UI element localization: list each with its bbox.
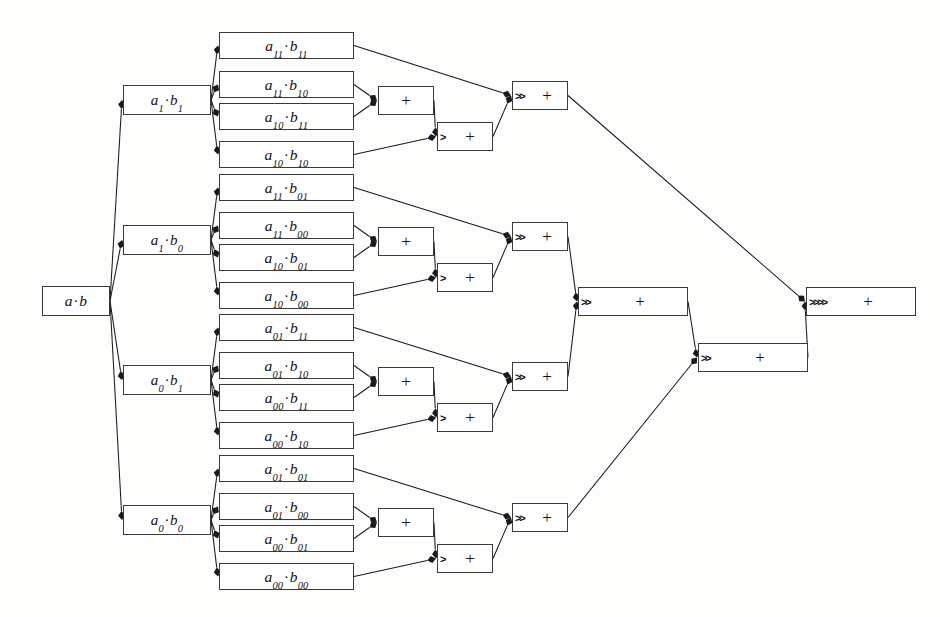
node-label: a1·b0 — [151, 232, 184, 249]
shift-marker-icon: >> — [701, 351, 709, 363]
node-partial-product-4[interactable]: a0·b0 — [123, 505, 211, 535]
adder-add12[interactable]: >>+ — [512, 503, 568, 532]
edge-arrowhead-icon — [502, 372, 511, 379]
node-partial-product-3[interactable]: a0·b1 — [123, 365, 211, 395]
node-label: a11·b11 — [265, 37, 308, 55]
edge-line — [354, 419, 427, 435]
node-term-t6[interactable]: a11·b00 — [219, 212, 354, 239]
edge-arrowhead-icon — [502, 513, 511, 520]
edge-line — [211, 100, 214, 108]
adder-add2[interactable]: >+ — [437, 122, 493, 151]
node-term-t9[interactable]: a01·b11 — [219, 314, 354, 341]
edge-line — [493, 245, 507, 278]
edge-arrowhead-icon — [427, 275, 436, 282]
node-term-t16[interactable]: a00·b00 — [219, 563, 354, 590]
adder-plus-symbol: + — [465, 128, 475, 145]
edge-line — [354, 246, 370, 257]
adder-add8[interactable]: >+ — [437, 403, 493, 432]
shift-marker-icon: >>>> — [809, 295, 826, 307]
adder-plus-symbol: + — [401, 233, 411, 250]
adder-add1[interactable]: + — [378, 86, 434, 115]
edge-arrowhead-icon — [370, 236, 377, 242]
node-label: a01·b00 — [264, 498, 308, 516]
node-term-t4[interactable]: a10·b10 — [219, 141, 354, 168]
node-term-t11[interactable]: a00·b11 — [219, 384, 354, 411]
adder-add7[interactable]: + — [378, 367, 434, 396]
node-term-t12[interactable]: a00·b10 — [219, 422, 354, 449]
shift-marker-icon: > — [440, 271, 444, 283]
node-label: a01·b01 — [264, 460, 308, 478]
edge-line — [568, 237, 576, 293]
node-partial-product-2[interactable]: a1·b0 — [123, 225, 211, 255]
adder-add9[interactable]: >>+ — [512, 362, 568, 391]
edge-arrowhead-icon — [370, 241, 377, 247]
edge-line — [211, 380, 217, 427]
node-term-t15[interactable]: a00·b01 — [219, 525, 354, 552]
shift-marker-icon: > — [440, 130, 444, 142]
node-label: a10·b00 — [264, 287, 308, 305]
edge-line — [434, 523, 435, 550]
adder-add11[interactable]: >+ — [437, 544, 493, 573]
node-root-product[interactable]: a·b — [42, 286, 110, 316]
adder-plus-symbol: + — [542, 368, 552, 385]
adder-add4[interactable]: + — [378, 227, 434, 256]
adder-add6[interactable]: >>+ — [512, 222, 568, 251]
edge-arrowhead-icon — [370, 381, 377, 387]
node-term-t13[interactable]: a01·b01 — [219, 455, 354, 482]
shift-marker-icon: >> — [515, 89, 523, 101]
edge-line — [354, 138, 427, 154]
adder-plus-symbol: + — [635, 293, 645, 310]
edge-line — [110, 301, 121, 511]
edge-line — [568, 96, 798, 296]
edge-line — [434, 101, 435, 128]
edge-line — [434, 242, 435, 269]
edge-line — [211, 240, 217, 287]
edge-line — [110, 249, 120, 301]
merge-adder-m2[interactable]: >>+ — [698, 343, 808, 372]
node-term-t14[interactable]: a01·b00 — [219, 493, 354, 520]
adder-add10[interactable]: + — [378, 508, 434, 537]
edge-line — [354, 226, 370, 237]
node-label: a·b — [65, 292, 87, 310]
adder-plus-symbol: + — [401, 92, 411, 109]
edge-line — [211, 92, 214, 100]
node-label: a0·b0 — [151, 512, 184, 529]
node-term-t2[interactable]: a11·b10 — [219, 71, 354, 98]
node-term-t8[interactable]: a10·b00 — [219, 282, 354, 309]
edge-line — [211, 54, 217, 100]
edge-line — [211, 373, 214, 380]
edge-line — [354, 366, 370, 377]
adder-plus-symbol: + — [863, 293, 873, 310]
node-label: a01·b11 — [265, 319, 308, 337]
node-term-t10[interactable]: a01·b10 — [219, 352, 354, 379]
node-label: a10·b01 — [264, 249, 308, 267]
edge-arrowhead-icon — [502, 91, 511, 98]
edge-line — [354, 85, 370, 96]
node-partial-product-1[interactable]: a1·b1 — [123, 85, 211, 115]
edge-line — [354, 386, 370, 397]
adder-plus-symbol: + — [542, 228, 552, 245]
edge-arrowhead-icon — [370, 522, 377, 528]
node-term-t7[interactable]: a10·b01 — [219, 244, 354, 271]
edge-arrowhead-icon — [370, 100, 377, 106]
edge-line — [493, 104, 507, 137]
shift-marker-icon: >> — [515, 230, 523, 242]
merge-adder-m3[interactable]: >>>>+ — [806, 287, 916, 316]
edge-line — [211, 233, 214, 240]
adder-plus-symbol: + — [401, 514, 411, 531]
edge-line — [110, 109, 121, 301]
edge-line — [568, 310, 576, 376]
shift-marker-icon: >> — [515, 511, 523, 523]
node-term-t3[interactable]: a10·b11 — [219, 103, 354, 130]
edge-line — [493, 385, 507, 418]
merge-adder-m1[interactable]: >>+ — [578, 287, 688, 316]
shift-marker-icon: >> — [515, 370, 523, 382]
edge-arrowhead-icon — [691, 358, 697, 365]
adder-add5[interactable]: >+ — [437, 263, 493, 292]
edge-line — [493, 526, 507, 559]
node-term-t1[interactable]: a11·b11 — [219, 32, 354, 59]
edge-line — [434, 382, 435, 409]
node-term-t5[interactable]: a11·b01 — [219, 174, 354, 201]
adder-add3[interactable]: >>+ — [512, 81, 568, 110]
node-label: a10·b11 — [265, 108, 308, 126]
